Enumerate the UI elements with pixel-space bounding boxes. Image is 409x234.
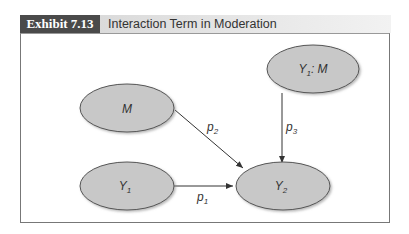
node-m: M	[80, 84, 174, 132]
node-y1: Y1	[80, 162, 174, 210]
node-y1m: Y1: M	[267, 45, 359, 93]
svg-text:p2: p2	[206, 120, 219, 136]
svg-text:p3: p3	[285, 120, 298, 136]
edge-p3: p3	[282, 93, 298, 163]
svg-text:p1: p1	[196, 190, 208, 206]
svg-text:Y1: M: Y1: M	[298, 62, 327, 78]
svg-text:M: M	[122, 102, 132, 116]
moderation-diagram: p2 p3 p1 M Y1: M Y1 Y2	[0, 0, 409, 234]
edge-p1: p1	[173, 186, 233, 206]
node-y2: Y2	[236, 162, 330, 210]
edge-p2: p2	[175, 110, 243, 168]
